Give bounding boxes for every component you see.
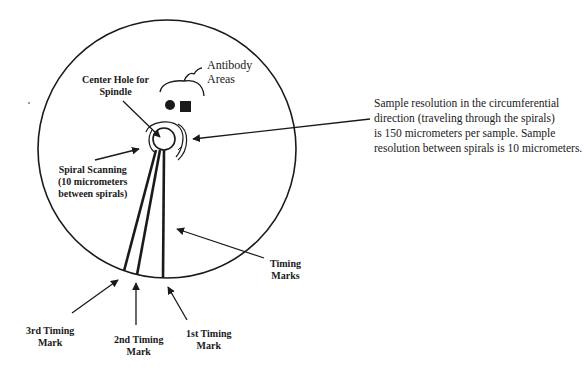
third-timing-arrow: [72, 280, 118, 313]
antibody-square-icon: [180, 101, 191, 112]
label-center-hole: Center Hole for Spindle: [82, 74, 149, 98]
center-hole-arrow: [123, 101, 160, 137]
note-arrow: [193, 119, 370, 139]
label-second-timing-mark: 2nd Timing Mark: [114, 334, 163, 358]
antibody-brace: [160, 68, 204, 96]
disc-diagram: Antibody Areas Center Hole for Spindle S…: [0, 0, 584, 371]
resolution-note: Sample resolution in the circumferential…: [374, 96, 582, 156]
label-spiral-scanning: Spiral Scanning (10 micrometers between …: [58, 164, 128, 200]
timing-marks-arrow: [177, 229, 264, 258]
antibody-dot-icon: [165, 100, 175, 110]
label-antibody-areas: Antibody Areas: [207, 58, 252, 86]
spiral-scanning-arrow: [95, 149, 139, 160]
label-first-timing-mark: 1st Timing Mark: [186, 328, 231, 352]
stray-dot: [28, 102, 30, 104]
label-timing-marks: Timing Marks: [270, 258, 301, 282]
label-third-timing-mark: 3rd Timing Mark: [26, 325, 74, 349]
first-timing-arrow: [168, 287, 187, 320]
timing-mark-1st: [163, 150, 164, 278]
center-hole: [153, 128, 175, 150]
